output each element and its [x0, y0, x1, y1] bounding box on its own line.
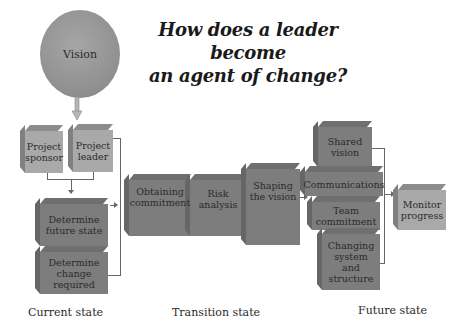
- title-line-1: How does a leader become: [128, 18, 368, 64]
- arrow-down-icon: [68, 190, 74, 194]
- shaping-the-vision-box: Shaping the vision: [246, 169, 300, 245]
- team-commitment-box: Team commitment: [312, 202, 380, 230]
- connector: [380, 263, 385, 264]
- monitor-progress-box: Monitor progress: [398, 190, 446, 230]
- communications-box: Communications: [305, 172, 383, 196]
- transition-state-label: Transition state: [172, 306, 260, 319]
- determine-future-state-box: Determine future state: [40, 204, 108, 246]
- project-leader-box: Project leader: [73, 130, 113, 172]
- changing-system-structure-box: Changing system and structure: [322, 234, 380, 290]
- risk-analysis-box: Risk analysis: [190, 180, 246, 236]
- connector: [93, 172, 94, 179]
- shared-vision-box: Shared vision: [318, 127, 372, 167]
- diagram-title: How does a leader become an agent of cha…: [128, 18, 368, 87]
- determine-change-required-box: Determine change required: [40, 252, 108, 294]
- down-arrow-icon: [72, 97, 82, 121]
- vision-label: Vision: [63, 48, 97, 61]
- connector: [372, 148, 384, 149]
- title-line-2: an agent of change?: [128, 64, 368, 87]
- obtaining-commitment-box: Obtaining commitment: [129, 180, 191, 236]
- vision-circle: Vision: [40, 10, 120, 98]
- arrow-right-icon: [114, 202, 118, 208]
- connector: [384, 148, 385, 264]
- current-state-label: Current state: [28, 306, 103, 319]
- project-sponsor-box: Project sponsor: [25, 131, 63, 173]
- connector: [108, 275, 121, 276]
- connector: [120, 138, 121, 276]
- future-state-label: Future state: [358, 304, 427, 317]
